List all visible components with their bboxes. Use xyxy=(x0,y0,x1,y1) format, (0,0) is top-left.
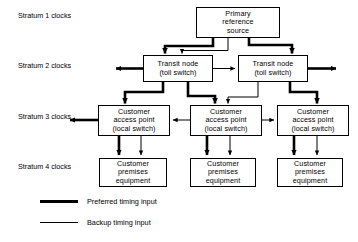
link-transit-left-to-cap-center-preferred xyxy=(188,82,215,104)
stratum-1-line2: clocks xyxy=(51,11,71,20)
stratum-3-line2: clocks xyxy=(51,112,71,121)
cap-center-line-3: (local switch) xyxy=(205,125,248,133)
stratum-2-line2: clocks xyxy=(51,61,71,70)
customer-premises-equipment-center-box: Customer premises equipment xyxy=(190,158,256,187)
link-transit-left-to-cap-left-preferred xyxy=(125,82,163,104)
customer-access-point-left-box: Customer access point (local switch) xyxy=(98,105,170,136)
customer-access-point-center-box: Customer access point (local switch) xyxy=(190,105,262,136)
stratum-label-1: Stratum 1 clocks xyxy=(18,12,71,21)
transit-right-line-2: (toll switch) xyxy=(254,69,291,77)
customer-premises-equipment-left-box: Customer premises equipment xyxy=(99,158,167,187)
stratum-4-line1: Stratum 4 xyxy=(18,162,49,171)
link-prs-to-transit-right-preferred xyxy=(249,38,292,54)
transit-node-right-box: Transit node (toll switch) xyxy=(238,55,308,82)
link-prs-to-transit-left-preferred xyxy=(165,38,213,54)
cap-right-line-3: (local switch) xyxy=(292,125,335,133)
cpe-center-line-3: equipment xyxy=(206,177,240,185)
customer-premises-equipment-right-box: Customer premises equipment xyxy=(277,158,343,187)
stratum-label-2: Stratum 2 clocks xyxy=(18,62,71,71)
transit-node-left-box: Transit node (toll switch) xyxy=(143,55,213,82)
link-transit-right-to-cap-center-backup xyxy=(228,82,258,104)
stratum-4-line2: clocks xyxy=(51,162,71,171)
cap-left-line-3: (local switch) xyxy=(113,125,156,133)
stratum-2-line1: Stratum 2 xyxy=(18,61,49,70)
primary-reference-source-box: Primary reference source xyxy=(196,7,280,38)
transit-left-line-2: (toll switch) xyxy=(159,69,196,77)
link-transit-right-to-cap-right-preferred xyxy=(290,82,317,104)
backup-timing-line-icon xyxy=(40,222,78,223)
cpe-left-line-3: equipment xyxy=(116,177,150,185)
legend-label-preferred: Preferred timing input xyxy=(87,197,157,206)
legend-label-backup: Backup timing input xyxy=(87,218,151,227)
stratum-label-4: Stratum 4 clocks xyxy=(18,163,71,172)
network-synchronization-diagram: Stratum 1 clocks Stratum 2 clocks Stratu… xyxy=(0,0,358,242)
stratum-3-line1: Stratum 3 xyxy=(18,112,49,121)
cpe-right-line-3: equipment xyxy=(293,177,327,185)
preferred-timing-line-icon xyxy=(40,200,78,203)
prs-line-3: source xyxy=(227,27,249,35)
legend-item-preferred-timing-input: Preferred timing input xyxy=(40,197,157,206)
customer-access-point-right-box: Customer access point (local switch) xyxy=(277,105,349,136)
stratum-label-3: Stratum 3 clocks xyxy=(18,113,71,122)
stratum-1-line1: Stratum 1 xyxy=(18,11,49,20)
legend-item-backup-timing-input: Backup timing input xyxy=(40,218,151,227)
